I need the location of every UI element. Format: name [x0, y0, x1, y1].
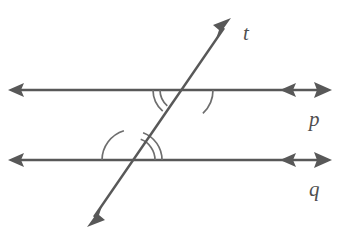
angle-arc-lower-right-double-inner: [141, 139, 155, 160]
angle-arc-upper-left-double-outer: [153, 90, 163, 111]
geometry-figure: t p q: [0, 0, 338, 232]
line-p-group: [8, 82, 332, 98]
line-t-top-arrowhead-icon: [213, 18, 231, 39]
line-t-group: [87, 18, 231, 227]
label-transversal-t: t: [243, 21, 250, 45]
angle-arc-upper-right-single: [203, 90, 213, 113]
geometry-canvas: t p q: [0, 0, 338, 232]
angle-arcs-lower-intersection: [102, 131, 162, 160]
angle-arc-upper-left-double-inner: [160, 90, 167, 106]
line-q-group: [8, 152, 332, 168]
angle-arc-lower-right-double-outer: [143, 133, 162, 160]
line-t-bottom-arrowhead-icon: [87, 206, 105, 227]
label-line-p: p: [307, 107, 320, 131]
line-t-shaft: [94, 28, 224, 217]
label-line-q: q: [309, 177, 320, 201]
angle-arcs-upper-intersection: [153, 90, 213, 113]
angle-arc-lower-left-single: [102, 131, 124, 160]
